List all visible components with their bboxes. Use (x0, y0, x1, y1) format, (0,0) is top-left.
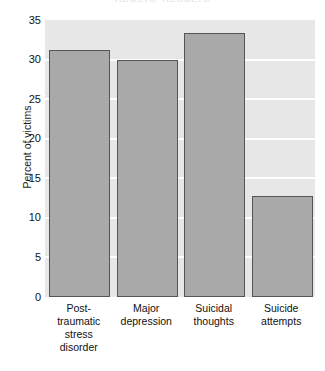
x-tick-label-line: traumatic (41, 315, 117, 328)
y-tick-label: 20 (3, 133, 41, 144)
y-tick-label: 10 (3, 212, 41, 223)
bar[interactable] (252, 196, 313, 297)
x-tick-label-line: Major (109, 302, 185, 315)
x-tick-label-line: Post- (41, 302, 117, 315)
bars-group (45, 20, 315, 297)
bar[interactable] (49, 50, 110, 297)
x-tick-label-line: disorder (41, 341, 117, 354)
bar-slot (252, 20, 313, 297)
x-tick-label: Suicideattempts (244, 302, 320, 328)
y-tick-label: 15 (3, 173, 41, 184)
bar-chart-figure: ADULTS' RESULTS Percent of victims 05101… (0, 0, 325, 371)
bar-slot (184, 20, 245, 297)
y-tick-label: 0 (3, 292, 41, 303)
x-tick-label-line: Suicide (244, 302, 320, 315)
chart-title: ADULTS' RESULTS (0, 0, 325, 2)
x-tick-label-line: attempts (244, 315, 320, 328)
x-tick-label: Majordepression (109, 302, 185, 328)
x-tick-label-line: Suicidal (176, 302, 252, 315)
bar[interactable] (184, 33, 245, 297)
x-tick-label: Post-traumaticstressdisorder (41, 302, 117, 354)
y-tick-label: 30 (3, 54, 41, 65)
bar-slot (49, 20, 110, 297)
y-tick-label: 25 (3, 94, 41, 105)
plot-area (45, 20, 315, 297)
x-tick-label-line: thoughts (176, 315, 252, 328)
y-tick-label: 5 (3, 252, 41, 263)
y-tick-label: 35 (3, 15, 41, 26)
x-tick-label: Suicidalthoughts (176, 302, 252, 328)
x-tick-label-line: depression (109, 315, 185, 328)
x-tick-label-line: stress (41, 328, 117, 341)
bar[interactable] (117, 60, 178, 297)
y-axis-tick-labels: 05101520253035 (0, 0, 41, 371)
x-axis-tick-labels: Post-traumaticstressdisorderMajordepress… (45, 302, 315, 370)
bar-slot (117, 20, 178, 297)
